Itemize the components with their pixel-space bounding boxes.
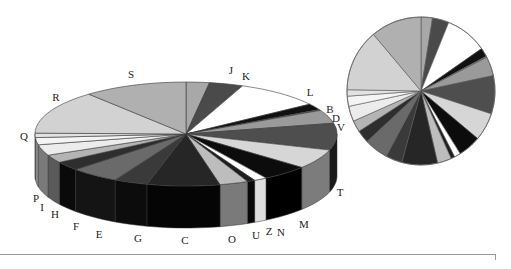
slice-label-v: V xyxy=(337,121,345,133)
slice-side-h xyxy=(48,155,59,204)
slice-label-h: H xyxy=(51,208,59,220)
slice-label-u: U xyxy=(252,229,260,241)
bottom-divider-tick xyxy=(495,254,496,260)
slice-side-p xyxy=(35,138,38,187)
slice-label-p: P xyxy=(33,192,39,204)
slice-label-n: N xyxy=(277,226,285,238)
slice-side-o xyxy=(220,182,247,227)
slice-side-c xyxy=(147,184,220,228)
slice-side-z xyxy=(255,178,266,222)
slice-label-q: Q xyxy=(20,130,28,142)
slice-label-g: G xyxy=(134,232,142,244)
slice-label-m: M xyxy=(299,218,309,230)
slice-label-z: Z xyxy=(266,225,273,237)
big-3d-pie-chart xyxy=(35,82,337,228)
slice-side-g xyxy=(115,180,147,226)
slice-side-f xyxy=(59,162,75,211)
slice-label-r: R xyxy=(52,91,60,103)
slice-label-c: C xyxy=(181,234,188,246)
slice-label-t: T xyxy=(337,186,344,198)
pie-top-faces xyxy=(35,82,337,186)
slice-label-e: E xyxy=(96,228,103,240)
slice-label-f: F xyxy=(73,220,79,232)
slice-side-u xyxy=(247,180,254,223)
slice-label-l: L xyxy=(307,86,314,98)
slice-label-k: K xyxy=(242,70,250,82)
small-flat-pie-chart xyxy=(347,17,495,165)
slice-label-o: O xyxy=(228,233,236,245)
bottom-divider xyxy=(0,254,496,255)
pie-chart-figure: JKLBDVTMNZUOCGEFHIPQRS xyxy=(0,0,511,269)
slice-label-i: I xyxy=(40,201,44,213)
slice-label-s: S xyxy=(128,68,134,80)
slice-label-j: J xyxy=(229,64,234,76)
